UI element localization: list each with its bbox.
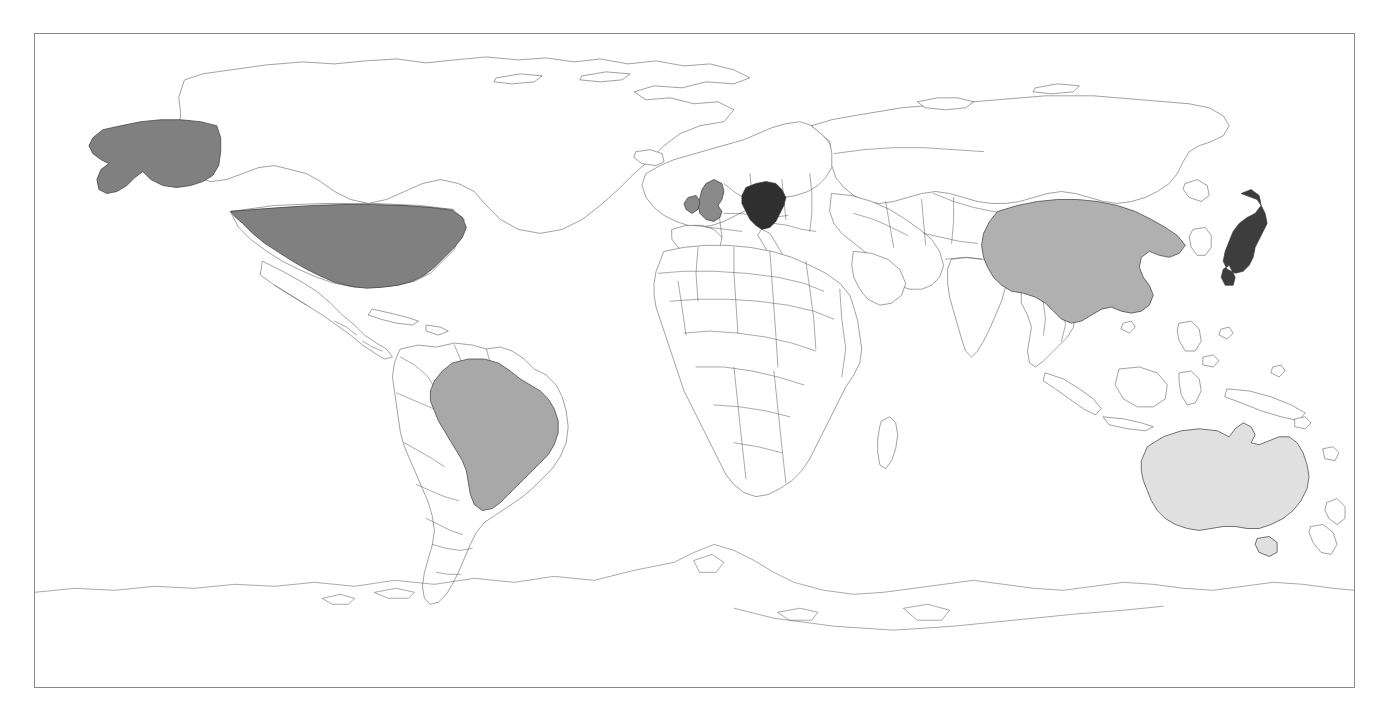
landmass-antarctica [35,544,1354,594]
landmass-africa [654,245,862,496]
landmass-sumatra [1043,373,1101,415]
landmass-new-guinea [1225,389,1305,421]
landmass-cuba [368,309,418,325]
country-tasmania[interactable] [1255,536,1277,556]
country-australia[interactable] [1141,423,1309,531]
landmass-hispaniola [426,325,448,335]
landmass-borneo [1115,367,1167,407]
landmass-madagascar [878,417,898,469]
country-germany[interactable] [742,182,786,230]
antarctic-detail-5 [904,604,950,620]
country-alaska[interactable] [89,120,221,194]
world-map-svg [35,34,1354,687]
map-page [0,0,1393,717]
antarctic-detail-2 [374,588,414,598]
landmass-korea [1189,227,1211,255]
antarctic-detail-4 [778,608,818,620]
landmass-philippines [1177,321,1201,351]
landmass-java [1103,417,1153,431]
antarctic-detail-1 [323,594,355,604]
landmass-nz-north [1325,499,1345,525]
landmass-russia [812,96,1229,204]
antarctic-detail-3 [694,554,724,572]
map-frame [34,33,1355,688]
country-japan[interactable] [1221,190,1267,286]
country-china[interactable] [982,199,1186,323]
landmass-nz-south [1309,524,1337,554]
landmass-sulawesi [1179,371,1201,405]
